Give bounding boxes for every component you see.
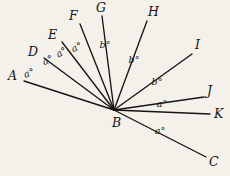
point-label-C: C (209, 154, 219, 169)
angle-label-H-I: b° (129, 54, 140, 65)
angle-label-G-H: b° (100, 39, 111, 50)
angle-label-J-K: a° (157, 98, 167, 109)
point-label-G: G (96, 0, 106, 15)
angle-label-I-J: b° (152, 76, 163, 87)
ray-BK (114, 110, 210, 114)
ray-BA (24, 81, 114, 110)
vertex-label-group: ADEFGHIJKCB (7, 0, 224, 169)
point-label-B: B (111, 115, 121, 130)
point-label-A: A (7, 68, 17, 83)
point-label-I: I (194, 37, 201, 52)
ray-BH (114, 21, 147, 110)
angle-diagram: ADEFGHIJKCB a°a°a°a°b°b°b°a°a° (0, 0, 230, 176)
point-label-E: E (47, 27, 57, 42)
point-label-D: D (27, 44, 38, 59)
point-label-K: K (213, 106, 224, 121)
point-label-F: F (68, 8, 79, 23)
point-label-H: H (147, 4, 160, 19)
angle-label-A-D: a° (22, 66, 35, 80)
point-label-J: J (204, 83, 213, 98)
angle-label-F-G: a° (69, 40, 83, 54)
angle-label-K-C: a° (155, 125, 165, 136)
